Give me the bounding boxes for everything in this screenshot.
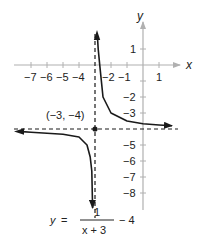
x-tick-label: −7 — [24, 71, 37, 83]
curve-left-branch — [31, 132, 93, 208]
asymptote-intersection-point — [92, 126, 97, 131]
y-tick-label: −3 — [123, 107, 136, 119]
equation-tail: − 4 — [119, 214, 135, 226]
x-tick-label: −5 — [56, 71, 69, 83]
y-axis-label: y — [136, 9, 144, 23]
x-tick-label: −6 — [40, 71, 53, 83]
x-axis-label: x — [185, 58, 193, 72]
y-tick-label: −7 — [123, 171, 136, 183]
y-tick-label: 1 — [130, 43, 136, 55]
equation: y = 1 x + 3 − 4 — [49, 206, 135, 236]
y-tick-label: −6 — [123, 155, 136, 167]
y-axis — [140, 22, 146, 210]
x-tick-label: 1 — [156, 71, 162, 83]
equation-lhs: y — [49, 214, 57, 226]
x-tick-label: −4 — [72, 71, 85, 83]
x-tick-label: −1 — [118, 71, 131, 83]
equation-numerator: 1 — [94, 206, 100, 218]
x-tick-label: −2 — [102, 71, 115, 83]
y-tick-label: −8 — [123, 187, 136, 199]
y-tick-label: −5 — [123, 139, 136, 151]
point-annotation: (−3, −4) — [46, 109, 85, 121]
x-axis — [14, 62, 180, 68]
y-tick-label: −2 — [123, 91, 136, 103]
equation-equals: = — [61, 214, 67, 226]
equation-denominator: x + 3 — [82, 224, 106, 236]
graph-canvas: y x −7 −6 −5 −4 −2 −1 1 1 −2 −3 −5 −6 −7… — [0, 0, 202, 249]
